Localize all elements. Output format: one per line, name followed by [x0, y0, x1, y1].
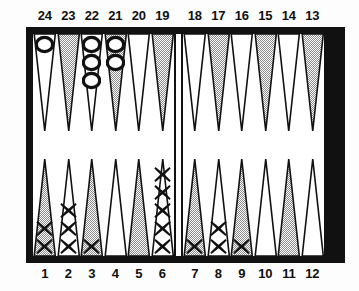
point-label-22: 22: [80, 8, 104, 24]
checker-stack-7[interactable]: [183, 237, 207, 255]
point-11[interactable]: [277, 158, 301, 256]
checker-stack-21[interactable]: [104, 35, 128, 71]
point-label-23: 23: [56, 8, 80, 24]
point-13[interactable]: [301, 34, 325, 132]
checker-o-icon[interactable]: [106, 35, 125, 54]
point-triangle-19: [151, 34, 175, 132]
point-9[interactable]: [230, 158, 254, 256]
point-triangle-18: [183, 34, 207, 132]
point-triangle-4: [104, 158, 128, 256]
point-label-13: 13: [300, 8, 324, 24]
point-label-6: 6: [150, 266, 174, 282]
point-12[interactable]: [301, 158, 325, 256]
checker-stack-9[interactable]: [230, 237, 254, 255]
checker-stack-6[interactable]: [151, 165, 175, 255]
checker-x-icon[interactable]: [153, 183, 172, 202]
point-label-20: 20: [127, 8, 151, 24]
checker-x-icon[interactable]: [59, 219, 78, 238]
point-8[interactable]: [207, 158, 231, 256]
point-triangle-5: [127, 158, 151, 256]
checker-x-icon[interactable]: [82, 237, 101, 256]
point-label-8: 8: [206, 266, 230, 282]
center-bar: [174, 34, 183, 256]
point-triangle-20: [127, 34, 151, 132]
center-bar-inner: [176, 34, 181, 256]
point-triangle-11: [277, 158, 301, 256]
point-6[interactable]: [151, 158, 175, 256]
point-4[interactable]: [104, 158, 128, 256]
point-label-15: 15: [253, 8, 277, 24]
point-label-24: 24: [33, 8, 57, 24]
point-triangle-14: [277, 34, 301, 132]
point-triangle-23: [57, 34, 81, 132]
checker-x-icon[interactable]: [153, 165, 172, 184]
point-label-19: 19: [150, 8, 174, 24]
checker-x-icon[interactable]: [35, 219, 54, 238]
point-label-1: 1: [33, 266, 57, 282]
point-label-16: 16: [230, 8, 254, 24]
point-17[interactable]: [207, 34, 231, 132]
point-23[interactable]: [57, 34, 81, 132]
point-label-14: 14: [277, 8, 301, 24]
point-1[interactable]: [33, 158, 57, 256]
point-label-10: 10: [253, 266, 277, 282]
point-label-7: 7: [183, 266, 207, 282]
point-label-3: 3: [80, 266, 104, 282]
checker-o-icon[interactable]: [106, 53, 125, 72]
checker-x-icon[interactable]: [59, 237, 78, 256]
checker-o-icon[interactable]: [82, 35, 101, 54]
checker-x-icon[interactable]: [209, 219, 228, 238]
checker-x-icon[interactable]: [232, 237, 251, 256]
top-point-labels: 242322212019181716151413: [0, 8, 359, 24]
checker-x-icon[interactable]: [153, 201, 172, 220]
point-label-2: 2: [56, 266, 80, 282]
point-19[interactable]: [151, 34, 175, 132]
point-triangle-13: [301, 34, 325, 132]
point-label-9: 9: [230, 266, 254, 282]
checker-stack-24[interactable]: [33, 35, 57, 53]
point-triangle-17: [207, 34, 231, 132]
point-2[interactable]: [57, 158, 81, 256]
checker-x-icon[interactable]: [153, 237, 172, 256]
backgammon-board: 242322212019181716151413 123456789101112: [0, 0, 359, 291]
checker-stack-22[interactable]: [80, 35, 104, 89]
point-21[interactable]: [104, 34, 128, 132]
checker-stack-1[interactable]: [33, 219, 57, 255]
checker-x-icon[interactable]: [153, 219, 172, 238]
point-7[interactable]: [183, 158, 207, 256]
point-24[interactable]: [33, 34, 57, 132]
checker-o-icon[interactable]: [35, 35, 54, 54]
point-label-11: 11: [277, 266, 301, 282]
checker-stack-8[interactable]: [207, 219, 231, 255]
point-label-5: 5: [127, 266, 151, 282]
point-22[interactable]: [80, 34, 104, 132]
checker-o-icon[interactable]: [82, 53, 101, 72]
point-triangle-15: [254, 34, 278, 132]
point-18[interactable]: [183, 34, 207, 132]
point-10[interactable]: [254, 158, 278, 256]
checker-x-icon[interactable]: [185, 237, 204, 256]
point-3[interactable]: [80, 158, 104, 256]
bottom-point-labels: 123456789101112: [0, 266, 359, 282]
point-label-12: 12: [300, 266, 324, 282]
point-triangle-10: [254, 158, 278, 256]
checker-stack-2[interactable]: [57, 201, 81, 255]
point-5[interactable]: [127, 158, 151, 256]
point-label-21: 21: [103, 8, 127, 24]
point-16[interactable]: [230, 34, 254, 132]
point-label-4: 4: [103, 266, 127, 282]
checker-x-icon[interactable]: [209, 237, 228, 256]
checker-x-icon[interactable]: [35, 237, 54, 256]
point-15[interactable]: [254, 34, 278, 132]
point-20[interactable]: [127, 34, 151, 132]
point-triangle-16: [230, 34, 254, 132]
checker-x-icon[interactable]: [59, 201, 78, 220]
checker-o-icon[interactable]: [82, 71, 101, 90]
point-14[interactable]: [277, 34, 301, 132]
point-label-18: 18: [183, 8, 207, 24]
point-triangle-12: [301, 158, 325, 256]
point-label-17: 17: [206, 8, 230, 24]
checker-stack-3[interactable]: [80, 237, 104, 255]
